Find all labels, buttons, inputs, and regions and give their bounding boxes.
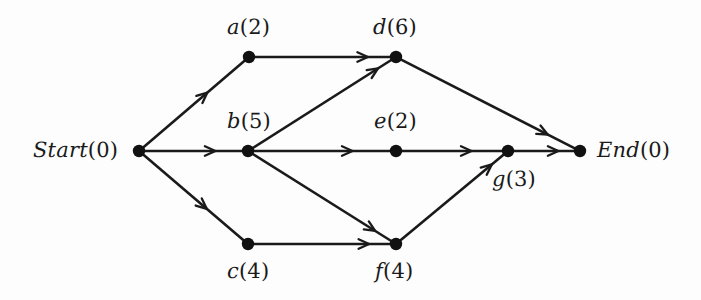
node-dot-g[interactable] bbox=[502, 145, 514, 157]
node-label-e: e(2) bbox=[374, 111, 417, 132]
edge-e-to-g bbox=[401, 146, 504, 155]
edge-b-to-e bbox=[253, 146, 392, 155]
node-dot-c[interactable] bbox=[242, 238, 254, 250]
edge-b-to-d bbox=[252, 60, 392, 149]
edge-line-b-d bbox=[252, 60, 392, 149]
edge-start-to-b bbox=[144, 146, 244, 155]
edge-c-to-f bbox=[253, 239, 392, 248]
node-dot-d[interactable] bbox=[390, 51, 402, 63]
edge-start-to-c bbox=[143, 154, 245, 241]
edge-line-b-f bbox=[252, 154, 392, 242]
node-label-c: c(4) bbox=[227, 261, 269, 282]
node-label-end: End(0) bbox=[597, 140, 670, 161]
edge-g-to-end bbox=[513, 146, 576, 155]
node-label-g: g(3) bbox=[492, 169, 536, 190]
diagram-canvas: Start(0)a(2)b(5)c(4)d(6)e(2)f(4)g(3)End(… bbox=[0, 0, 701, 300]
edge-f-to-g bbox=[400, 154, 505, 241]
edge-b-to-f bbox=[252, 154, 392, 242]
edge-line-d-end bbox=[400, 59, 576, 149]
node-label-d: d(6) bbox=[373, 17, 417, 38]
node-label-b: b(5) bbox=[227, 111, 271, 132]
node-label-a: a(2) bbox=[227, 17, 270, 38]
node-label-f: f(4) bbox=[375, 261, 413, 282]
edge-line-f-g bbox=[400, 154, 505, 241]
edge-start-to-a bbox=[143, 60, 246, 148]
node-dot-e[interactable] bbox=[390, 145, 402, 157]
edge-line-start-a bbox=[143, 60, 246, 148]
node-dot-f[interactable] bbox=[390, 238, 402, 250]
node-dot-end[interactable] bbox=[574, 145, 586, 157]
edge-line-start-c bbox=[143, 154, 245, 241]
node-label-start: Start(0) bbox=[33, 140, 118, 161]
node-dot-start[interactable] bbox=[133, 145, 145, 157]
node-dot-a[interactable] bbox=[243, 51, 255, 63]
edge-d-to-end bbox=[400, 59, 576, 149]
edge-a-to-d bbox=[254, 52, 392, 61]
node-dot-b[interactable] bbox=[242, 145, 254, 157]
